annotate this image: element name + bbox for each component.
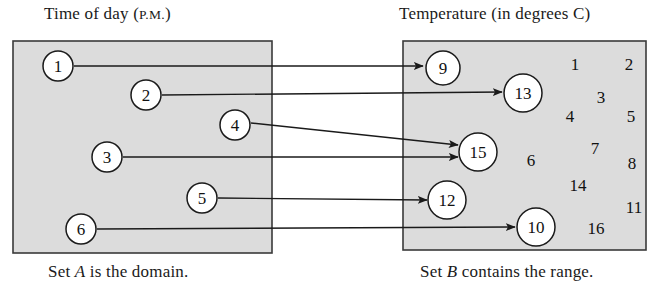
loose-number-2: 2 (625, 55, 634, 74)
loose-number-7: 7 (591, 139, 600, 158)
element-label-b-10: 10 (528, 218, 545, 237)
element-label-a-1: 1 (54, 57, 63, 76)
element-label-a-4: 4 (231, 116, 240, 135)
loose-number-6: 6 (527, 151, 536, 170)
element-label-a-3: 3 (103, 148, 112, 167)
diagram-canvas: 124356 913151210 12345768141116 (0, 0, 658, 288)
element-label-b-9: 9 (439, 59, 448, 78)
loose-number-1: 1 (571, 55, 580, 74)
loose-number-11: 11 (626, 198, 642, 217)
mapping-diagram-figure: Time of day (P.M.) Temperature (in degre… (0, 0, 658, 288)
element-label-b-12: 12 (439, 191, 456, 210)
loose-number-8: 8 (628, 154, 637, 173)
set-b-footer-name: B (447, 262, 458, 281)
loose-number-3: 3 (597, 88, 606, 107)
element-label-a-5: 5 (198, 189, 207, 208)
loose-number-16: 16 (588, 219, 605, 238)
loose-number-14: 14 (570, 176, 588, 195)
element-label-b-13: 13 (515, 84, 532, 103)
set-a-footer: Set A is the domain. (48, 262, 188, 282)
set-a-footer-post: is the domain. (85, 262, 188, 281)
element-label-a-2: 2 (142, 86, 151, 105)
set-a-footer-pre: Set (48, 262, 75, 281)
element-label-a-6: 6 (77, 220, 86, 239)
loose-number-4: 4 (566, 107, 575, 126)
set-b-footer-pre: Set (420, 262, 447, 281)
element-label-b-15: 15 (470, 143, 487, 162)
set-a-footer-name: A (75, 262, 86, 281)
loose-number-5: 5 (627, 107, 636, 126)
set-b-footer-post: contains the range. (457, 262, 593, 281)
set-b-footer: Set B contains the range. (420, 262, 594, 282)
